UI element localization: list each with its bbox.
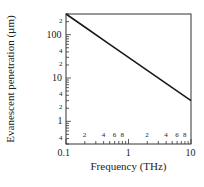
x-minor-tick-label: 8 <box>120 132 124 139</box>
x-axis-ticks <box>66 139 191 144</box>
y-minor-tick-label: 4 <box>59 91 63 98</box>
x-minor-tick-label: 4 <box>164 132 168 139</box>
y-axis-label-text: Evanescent penetration (µm) <box>4 15 16 142</box>
y-minor-tick-label: 2 <box>59 61 63 68</box>
x-axis-label: Frequency (THz) <box>66 160 191 172</box>
y-minor-tick-label: 2 <box>59 104 63 111</box>
x-minor-tick-label: 2 <box>145 132 149 139</box>
chart-canvas <box>0 0 204 187</box>
plot-frame <box>66 14 191 144</box>
x-tick-label: 10 <box>185 148 195 158</box>
x-tick-label: 1 <box>126 148 131 158</box>
y-tick-label: 10 <box>52 73 62 83</box>
y-minor-tick-label: 2 <box>59 18 63 25</box>
x-tick-label: 0.1 <box>58 148 71 158</box>
y-tick-label: 100 <box>47 30 62 40</box>
x-minor-tick-label: 6 <box>113 132 117 139</box>
x-minor-tick-label: 2 <box>83 132 87 139</box>
data-line <box>66 14 191 101</box>
x-minor-tick-label: 8 <box>183 132 187 139</box>
x-minor-tick-label: 6 <box>175 132 179 139</box>
y-minor-tick-label: 4 <box>59 135 63 142</box>
x-minor-tick-label: 4 <box>102 132 106 139</box>
y-axis-label: Evanescent penetration (µm) <box>0 14 20 144</box>
y-tick-label: 1 <box>58 116 63 126</box>
y-minor-tick-label: 4 <box>59 48 63 55</box>
y-axis-ticks <box>66 14 71 144</box>
